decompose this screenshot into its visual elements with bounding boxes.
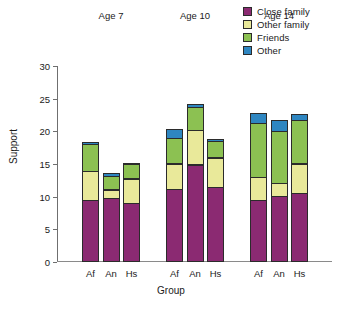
stacked-bar[interactable] [271, 118, 288, 262]
stacked-bar[interactable] [187, 101, 204, 262]
group-caption: Age 10 [180, 10, 210, 21]
bar-segment-friends [123, 164, 140, 179]
stacked-bar[interactable] [250, 111, 267, 262]
bar-segment-other-family [82, 171, 99, 200]
x-axis-tick-label: An [189, 268, 201, 279]
y-axis-tick [53, 131, 57, 132]
legend-swatch-close-family-icon [243, 7, 252, 16]
bar-segment-close-family [187, 165, 204, 262]
y-axis-tick [53, 262, 57, 263]
y-axis-tick [53, 164, 57, 165]
x-axis-tick-label: Af [86, 268, 95, 279]
y-axis-tick-label: 20 [39, 126, 50, 137]
stacked-bar[interactable] [166, 126, 183, 262]
legend-label: Friends [257, 33, 289, 43]
x-axis-tick-label: Hs [210, 268, 222, 279]
legend-swatch-friends-icon [243, 33, 252, 42]
bar-segment-other-family [291, 164, 308, 195]
group-caption: Age 14 [264, 10, 294, 21]
bar-segment-close-family [271, 196, 288, 262]
bar-segment-close-family [291, 193, 308, 262]
stacked-bar[interactable] [103, 171, 120, 262]
stacked-bar[interactable] [291, 111, 308, 262]
stacked-bar[interactable] [82, 140, 99, 262]
bar-segment-other-family [123, 179, 140, 204]
x-axis-title: Group [0, 285, 342, 296]
legend-item[interactable]: Other [243, 45, 310, 56]
x-axis-tick-label: Hs [294, 268, 306, 279]
y-axis-tick-label: 10 [39, 191, 50, 202]
bar-segment-friends [250, 123, 267, 178]
bar-segment-close-family [123, 203, 140, 262]
plot-area: 051015202530Age 7AfAnHsAge 10AfAnHsAge 1… [57, 66, 332, 262]
stacked-bar-chart: Close familyOther familyFriendsOther 051… [0, 0, 342, 312]
y-axis-tick-label: 5 [45, 224, 50, 235]
y-axis-tick-label: 0 [45, 257, 50, 268]
bar-segment-friends [271, 131, 288, 184]
y-axis-tick [53, 229, 57, 230]
x-axis-tick-label: Af [254, 268, 263, 279]
group-caption: Age 7 [99, 10, 124, 21]
legend-swatch-other-icon [243, 46, 252, 55]
x-axis-tick-label: An [105, 268, 117, 279]
y-axis-tick-label: 30 [39, 61, 50, 72]
y-axis-tick-label: 15 [39, 159, 50, 170]
bar-segment-close-family [166, 189, 183, 262]
y-axis-title: Support [8, 129, 19, 164]
y-axis-tick [53, 66, 57, 67]
bar-segment-close-family [207, 187, 224, 262]
stacked-bar[interactable] [207, 137, 224, 262]
bar-segment-other-family [271, 183, 288, 197]
bar-segment-other-family [166, 164, 183, 191]
bar-segment-friends [103, 176, 120, 190]
bar-segment-other-family [207, 158, 224, 188]
y-axis-tick [53, 197, 57, 198]
x-axis-tick-label: Af [170, 268, 179, 279]
bar-segment-close-family [250, 200, 267, 262]
bar-segment-close-family [103, 198, 120, 262]
legend-label: Other family [257, 20, 309, 30]
bar-segment-friends [82, 144, 99, 172]
bar-segment-close-family [82, 200, 99, 262]
y-axis-tick [53, 99, 57, 100]
y-axis-tick-label: 25 [39, 93, 50, 104]
legend-label: Other [257, 46, 281, 56]
bar-segment-friends [187, 107, 204, 131]
stacked-bar[interactable] [123, 161, 140, 262]
x-axis-tick-label: An [273, 268, 285, 279]
bar-segment-friends [291, 120, 308, 164]
bar-segment-other-family [250, 177, 267, 201]
y-axis-line [57, 66, 58, 262]
bar-segment-friends [166, 138, 183, 164]
x-axis-tick-label: Hs [126, 268, 138, 279]
bar-segment-friends [207, 141, 224, 158]
bar-segment-other-family [187, 130, 204, 165]
legend-item[interactable]: Friends [243, 32, 310, 43]
legend-swatch-other-family-icon [243, 20, 252, 29]
